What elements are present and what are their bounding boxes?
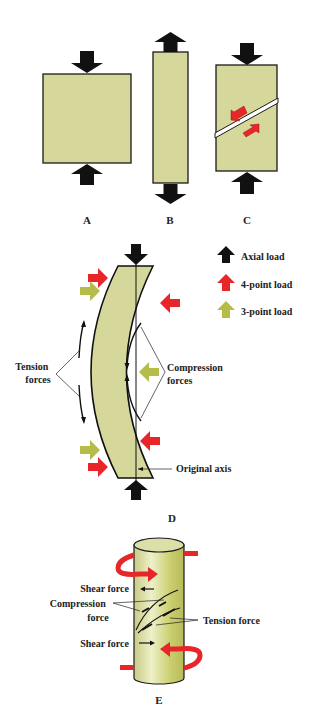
axial-arrow-down-icon: [155, 184, 187, 204]
four-point-arrow-icon: [160, 293, 180, 313]
legend: [217, 246, 235, 318]
four-point-arrow-icon: [88, 457, 108, 477]
panel-label-c: C: [243, 214, 251, 226]
shear-force-bottom-label: Shear force: [80, 638, 129, 649]
tension-arc-lower: [79, 385, 84, 422]
axial-arrow-up-icon: [71, 164, 103, 185]
original-axis-label: Original axis: [176, 463, 231, 474]
axial-arrow-up-icon: [231, 172, 263, 194]
three-point-arrow-icon: [80, 440, 100, 460]
axial-arrow-up-icon: [155, 32, 187, 52]
black-up-arrow-icon: [217, 246, 235, 263]
panel-label-d: D: [168, 512, 176, 524]
legend-label-axial: Axial load: [241, 251, 285, 262]
material-block-b: [153, 52, 188, 183]
axial-arrow-up-icon: [124, 480, 148, 500]
panel-c-shear: [215, 43, 278, 194]
torsion-bar-top: [184, 551, 198, 556]
legend-label-3point: 3-point load: [241, 306, 293, 317]
panel-label-b: B: [166, 214, 174, 226]
compression-force-label: Compression force: [50, 598, 110, 623]
cylinder-body: [134, 545, 184, 684]
four-point-arrow-icon: [140, 431, 160, 451]
tension-arc-upper: [79, 322, 84, 358]
panel-label-e: E: [155, 694, 162, 706]
arrowhead-icon: [81, 320, 86, 327]
tension-force-label: Tension force: [203, 615, 261, 626]
panel-label-a: A: [83, 214, 91, 226]
biomechanics-loading-diagram: A B C: [0, 0, 314, 714]
tension-leader-lines: [56, 350, 80, 397]
panel-a-compression: [43, 51, 131, 185]
red-up-arrow-icon: [217, 274, 235, 291]
panel-b-tension: [153, 32, 188, 204]
tension-forces-label: Tension forces: [15, 361, 51, 385]
three-point-arrow-icon: [139, 362, 159, 382]
axial-arrow-down-icon: [231, 43, 263, 65]
three-point-arrow-icon: [80, 281, 100, 301]
torsion-bar-bottom: [120, 665, 134, 670]
cylinder-top: [134, 538, 184, 552]
compression-forces-label: Compression forces: [167, 362, 225, 386]
arrowhead-icon: [81, 417, 86, 424]
legend-label-4point: 4-point load: [241, 279, 293, 290]
panel-e-torsion: [113, 538, 200, 684]
panel-d-bending: [56, 244, 180, 500]
axial-arrow-down-icon: [124, 244, 148, 265]
olive-up-arrow-icon: [217, 301, 235, 318]
material-block-a: [43, 74, 131, 163]
shear-force-top-label: Shear force: [80, 583, 129, 594]
axial-arrow-down-icon: [71, 51, 103, 73]
